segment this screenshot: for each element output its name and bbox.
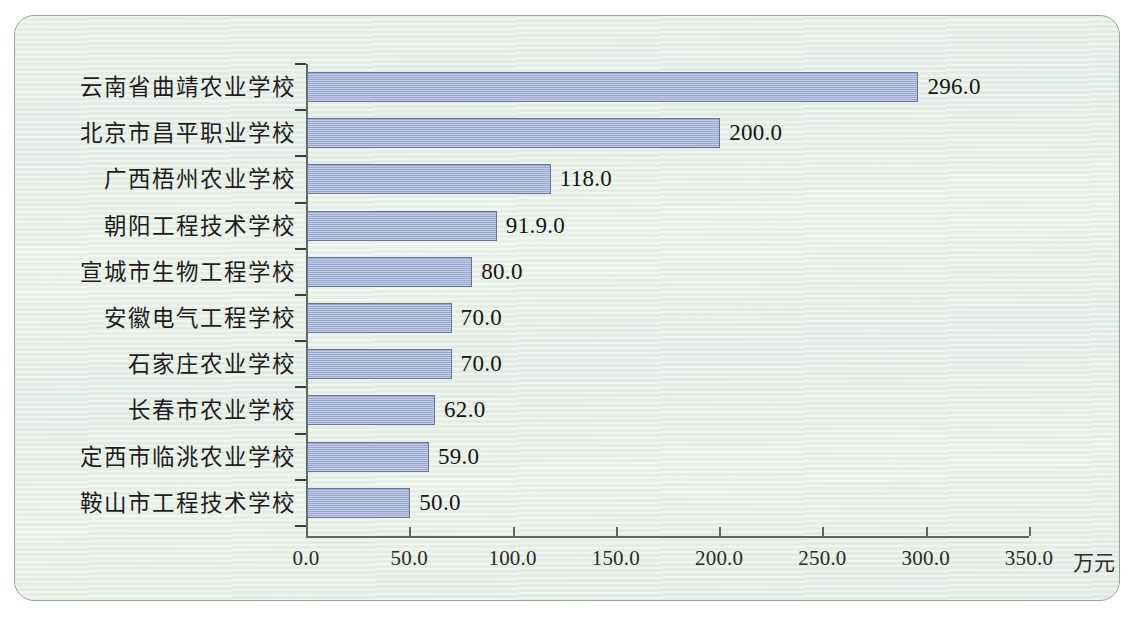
bar: [307, 257, 472, 287]
x-axis-line: [306, 536, 1029, 538]
bar: [307, 164, 551, 194]
bar-value-label: 59.0: [438, 442, 479, 472]
category-label: 北京市昌平职业学校: [80, 118, 296, 148]
bar: [307, 488, 410, 518]
x-axis-tick-label: 200.0: [695, 546, 743, 571]
y-axis-tick: [295, 248, 306, 250]
y-axis-tick: [295, 109, 306, 111]
category-label: 长春市农业学校: [128, 395, 296, 425]
bar-value-label: 91.9.0: [506, 211, 565, 241]
bar: [307, 211, 497, 241]
y-axis-tick: [295, 386, 306, 388]
y-axis-tick: [295, 202, 306, 204]
x-axis-tick-label: 300.0: [902, 546, 950, 571]
y-axis-tick: [295, 294, 306, 296]
bar: [307, 442, 429, 472]
x-axis-tick: [616, 527, 618, 536]
y-axis-tick: [295, 525, 306, 527]
x-axis-tick: [409, 527, 411, 536]
bar-value-label: 70.0: [461, 303, 502, 333]
x-axis-tick-label: 0.0: [293, 546, 320, 571]
x-axis-tick-label: 150.0: [592, 546, 640, 571]
category-label: 云南省曲靖农业学校: [80, 72, 296, 102]
x-axis-unit-label: 万元: [1073, 546, 1115, 576]
category-label: 鞍山市工程技术学校: [80, 488, 296, 518]
bar-value-label: 80.0: [481, 257, 522, 287]
y-axis-tick: [295, 433, 306, 435]
bar: [307, 349, 452, 379]
y-axis-tick: [295, 340, 306, 342]
x-axis-tick: [719, 527, 721, 536]
bar: [307, 72, 918, 102]
bar-value-label: 62.0: [444, 395, 485, 425]
x-axis-tick-label: 100.0: [488, 546, 536, 571]
x-axis-tick: [822, 527, 824, 536]
category-axis-labels: 云南省曲靖农业学校北京市昌平职业学校广西梧州农业学校朝阳工程技术学校宣城市生物工…: [15, 64, 296, 538]
x-axis-tick-label: 250.0: [798, 546, 846, 571]
plot-area: 296.0200.0118.091.9.080.070.070.062.059.…: [306, 64, 1031, 538]
category-label: 朝阳工程技术学校: [104, 211, 296, 241]
bar: [307, 118, 720, 148]
bar-value-label: 296.0: [927, 72, 980, 102]
category-label: 宣城市生物工程学校: [80, 257, 296, 287]
bar-value-label: 50.0: [419, 488, 460, 518]
category-label: 广西梧州农业学校: [104, 164, 296, 194]
x-axis-tick: [1029, 527, 1031, 536]
y-axis-tick: [295, 479, 306, 481]
x-axis-tick: [926, 527, 928, 536]
x-axis-tick-label: 50.0: [391, 546, 429, 571]
bar-value-label: 200.0: [729, 118, 782, 148]
chart-figure: 云南省曲靖农业学校北京市昌平职业学校广西梧州农业学校朝阳工程技术学校宣城市生物工…: [14, 15, 1120, 601]
y-axis-tick: [295, 63, 306, 65]
category-label: 石家庄农业学校: [128, 349, 296, 379]
bar-value-label: 118.0: [560, 164, 612, 194]
x-axis-tick: [513, 527, 515, 536]
bar-value-label: 70.0: [461, 349, 502, 379]
bar: [307, 303, 452, 333]
y-axis-tick: [295, 155, 306, 157]
category-label: 定西市临洮农业学校: [80, 442, 296, 472]
category-label: 安徽电气工程学校: [104, 303, 296, 333]
bar: [307, 395, 435, 425]
x-axis-tick-label: 350.0: [1005, 546, 1053, 571]
